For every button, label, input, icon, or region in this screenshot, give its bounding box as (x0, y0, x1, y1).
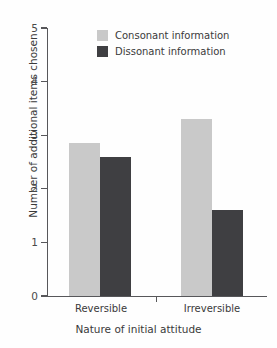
bar-chart-figure: Number of additional items chosen 012345… (0, 0, 277, 348)
legend-item-consonant: Consonant information (97, 30, 229, 41)
plot-area (48, 28, 266, 296)
bar-irreversible-consonant (181, 119, 212, 296)
y-tick-label-0: 0 (12, 291, 38, 302)
y-tick-label-5: 5 (12, 23, 38, 34)
legend-item-dissonant: Dissonant information (97, 46, 229, 57)
bar-irreversible-dissonant (212, 210, 243, 296)
chart-legend: Consonant information Dissonant informat… (97, 30, 229, 57)
category-separator-tick (156, 297, 157, 302)
y-tick-label-3: 3 (12, 130, 38, 141)
legend-swatch-consonant-icon (97, 30, 108, 41)
y-tick-label-1: 1 (12, 237, 38, 248)
legend-swatch-dissonant-icon (97, 46, 108, 57)
bar-reversible-consonant (69, 143, 100, 296)
bar-reversible-dissonant (100, 157, 131, 296)
y-tick-label-4: 4 (12, 76, 38, 87)
y-tick-label-2: 2 (12, 183, 38, 194)
category-label-irreversible: Irreversible (163, 303, 261, 314)
legend-label-consonant: Consonant information (115, 30, 229, 41)
category-label-reversible: Reversible (52, 303, 150, 314)
legend-label-dissonant: Dissonant information (115, 46, 226, 57)
x-axis-title: Nature of initial attitude (0, 324, 277, 335)
